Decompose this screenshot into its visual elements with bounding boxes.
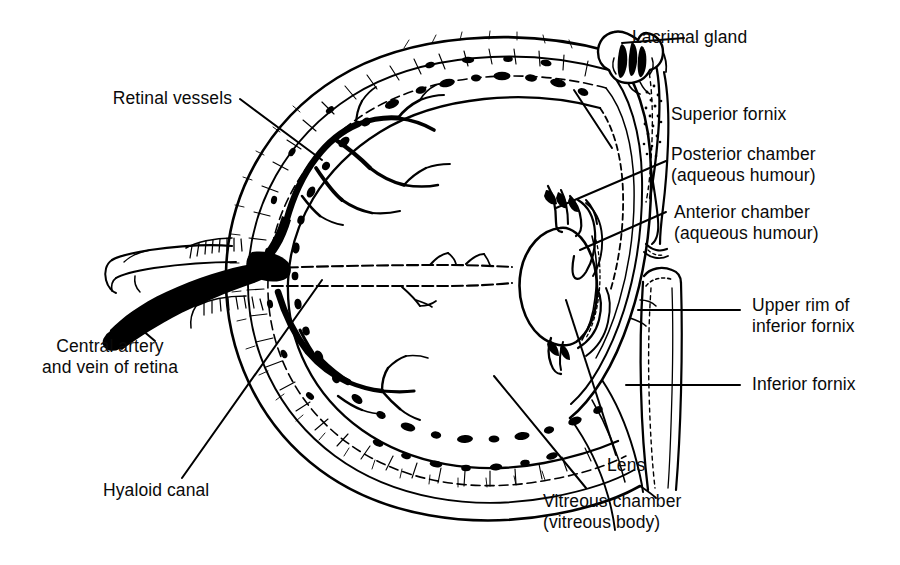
label-vitreous-chamber: Vitreous chamber (vitreous body) [543,491,681,532]
label-lacrimal-gland: Lacrimal gland [632,27,747,48]
lens [520,228,598,346]
label-retinal-vessels: Retinal vessels [0,88,232,109]
label-upper-rim-of-inferior-fornix: Upper rim of inferior fornix [752,295,855,336]
label-central-artery-and-vein: Central artery and vein of retina [0,336,220,377]
label-superior-fornix: Superior fornix [671,104,786,125]
label-hyaloid-canal: Hyaloid canal [103,480,209,501]
label-lens: Lens [607,455,645,476]
leader-hyaloid-canal [182,280,322,478]
eye-anatomy-figure: Retinal vessels Central artery and vein … [0,0,900,565]
central-retinal-vessels [99,216,291,355]
label-inferior-fornix: Inferior fornix [752,374,856,395]
cornea [570,52,651,418]
label-posterior-chamber: Posterior chamber (aqueous humour) [671,144,816,185]
label-anterior-chamber: Anterior chamber (aqueous humour) [674,202,819,243]
